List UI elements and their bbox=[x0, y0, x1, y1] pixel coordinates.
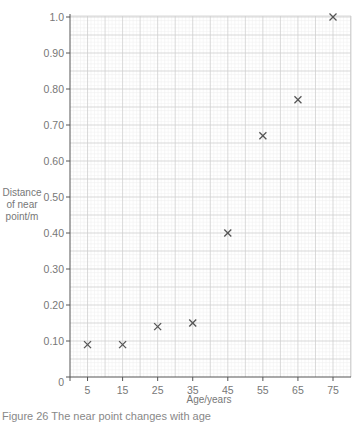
y-tick-label: 0.70 bbox=[44, 119, 65, 131]
origin-label: 0 bbox=[58, 376, 64, 388]
y-tick-label: 0.20 bbox=[44, 299, 65, 311]
x-tick-label: 15 bbox=[117, 384, 129, 396]
x-tick-label: 65 bbox=[292, 384, 304, 396]
x-tick-label: 5 bbox=[85, 384, 91, 396]
figure-caption: Figure 26 The near point changes with ag… bbox=[2, 410, 211, 422]
y-tick-label: 1.0 bbox=[49, 11, 64, 23]
svg-text:Distance: Distance bbox=[3, 187, 42, 198]
y-tick-label: 0.30 bbox=[44, 263, 65, 275]
y-tick-label: 0.10 bbox=[44, 335, 65, 347]
x-axis-ticks: 5152535455565750 bbox=[58, 376, 339, 396]
x-axis-label: Age/years bbox=[186, 394, 231, 405]
x-tick-label: 25 bbox=[152, 384, 164, 396]
y-tick-label: 0.50 bbox=[44, 191, 65, 203]
x-tick-label: 75 bbox=[327, 384, 339, 396]
y-tick-label: 0.60 bbox=[44, 155, 65, 167]
svg-text:point/m: point/m bbox=[6, 211, 39, 222]
x-tick-label: 55 bbox=[257, 384, 269, 396]
y-tick-label: 0.40 bbox=[44, 227, 65, 239]
y-axis-label: Distanceof nearpoint/m bbox=[3, 187, 42, 222]
y-axis-ticks: 0.100.200.300.400.500.600.700.800.901.0 bbox=[44, 11, 70, 347]
y-tick-label: 0.80 bbox=[44, 83, 65, 95]
y-tick-label: 0.90 bbox=[44, 47, 65, 59]
svg-text:of near: of near bbox=[6, 199, 38, 210]
